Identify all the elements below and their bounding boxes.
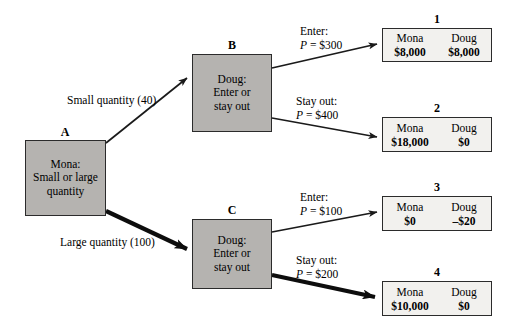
payoff-3-doug-label: Doug (451, 200, 477, 214)
payoff-box-3[interactable]: Mona $0 Doug –$20 (382, 196, 492, 231)
payoff-4-doug-label: Doug (451, 285, 477, 299)
payoff-2-doug: Doug $0 (437, 118, 491, 151)
edge-label-stayout-400-line1: Stay out: (296, 95, 337, 107)
edge-label-stayout-200: Stay out: P = $200 (296, 253, 338, 281)
edge-label-enter-100-line1: Enter: (300, 191, 328, 203)
payoff-3-mona: Mona $0 (383, 197, 437, 230)
payoff-number-2: 2 (382, 101, 492, 116)
payoff-1-doug-value: $8,000 (448, 45, 480, 59)
node-letter-a: A (25, 125, 105, 140)
decision-node-b[interactable]: Doug: Enter or stay out (192, 54, 272, 132)
price-symbol: P (296, 109, 303, 121)
payoff-box-2[interactable]: Mona $18,000 Doug $0 (382, 117, 492, 152)
edge-label-large-quantity: Large quantity (100) (60, 235, 155, 249)
price-value: = $300 (307, 39, 342, 51)
price-symbol: P (300, 205, 307, 217)
node-c-choice-line1: Enter or (213, 247, 250, 261)
edge-label-large-quantity-text: Large quantity (100) (60, 236, 155, 248)
payoff-number-1: 1 (382, 12, 492, 27)
node-c-choice-line2: stay out (213, 261, 250, 275)
payoff-1-mona-value: $8,000 (394, 45, 426, 59)
payoff-4-mona: Mona $10,000 (383, 282, 437, 315)
edge-label-stayout-400: Stay out: P = $400 (296, 94, 338, 122)
payoff-4-doug-value: $0 (458, 299, 470, 313)
edge-a-to-b (106, 78, 187, 143)
price-symbol: P (300, 39, 307, 51)
payoff-box-4[interactable]: Mona $10,000 Doug $0 (382, 281, 492, 316)
edge-label-enter-300-line1: Enter: (300, 25, 328, 37)
edge-label-enter-100: Enter: P = $100 (300, 190, 342, 218)
payoff-4-doug: Doug $0 (437, 282, 491, 315)
edge-label-small-quantity: Small quantity (40) (67, 93, 156, 107)
price-value: = $400 (303, 109, 338, 121)
node-letter-c: C (192, 203, 272, 218)
payoff-2-mona-label: Mona (397, 121, 424, 135)
decision-node-a[interactable]: Mona: Small or large quantity (25, 140, 106, 216)
node-a-choice-line1: Small or large (33, 171, 98, 185)
payoff-2-mona-value: $18,000 (391, 135, 428, 149)
payoff-1-mona-label: Mona (397, 31, 424, 45)
payoff-3-mona-value: $0 (404, 214, 416, 228)
edge-label-enter-300-line2: P = $300 (300, 38, 342, 52)
payoff-3-doug: Doug –$20 (437, 197, 491, 230)
node-b-choice-line2: stay out (213, 100, 250, 114)
price-value: = $200 (303, 268, 338, 280)
edge-label-enter-300: Enter: P = $300 (300, 24, 342, 52)
node-b-choice-line1: Enter or (213, 86, 250, 100)
node-c-player: Doug: (213, 234, 250, 248)
node-a-choice-line2: quantity (33, 185, 98, 199)
node-a-player: Mona: (33, 158, 98, 172)
payoff-2-doug-label: Doug (451, 121, 477, 135)
payoff-number-3: 3 (382, 180, 492, 195)
price-value: = $100 (307, 205, 342, 217)
edge-label-small-quantity-text: Small quantity (40) (67, 94, 156, 106)
payoff-4-mona-label: Mona (397, 285, 424, 299)
payoff-2-doug-value: $0 (458, 135, 470, 149)
payoff-1-doug: Doug $8,000 (437, 29, 491, 61)
edge-label-stayout-400-line2: P = $400 (296, 108, 338, 122)
payoff-2-mona: Mona $18,000 (383, 118, 437, 151)
payoff-number-4: 4 (382, 265, 492, 280)
payoff-box-1[interactable]: Mona $8,000 Doug $8,000 (382, 28, 492, 62)
edge-label-stayout-200-line1: Stay out: (296, 254, 337, 266)
node-b-player: Doug: (213, 73, 250, 87)
price-symbol: P (296, 268, 303, 280)
payoff-3-mona-label: Mona (397, 200, 424, 214)
decision-node-c[interactable]: Doug: Enter or stay out (192, 219, 272, 289)
node-letter-b: B (192, 38, 272, 53)
game-tree-diagram: A Mona: Small or large quantity B Doug: … (0, 0, 510, 336)
edge-label-enter-100-line2: P = $100 (300, 204, 342, 218)
payoff-4-mona-value: $10,000 (391, 299, 428, 313)
payoff-3-doug-value: –$20 (453, 214, 476, 228)
payoff-1-doug-label: Doug (451, 31, 477, 45)
payoff-1-mona: Mona $8,000 (383, 29, 437, 61)
edge-label-stayout-200-line2: P = $200 (296, 267, 338, 281)
